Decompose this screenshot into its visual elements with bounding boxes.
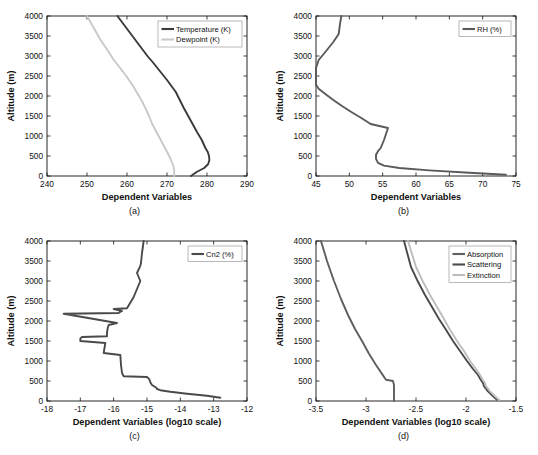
y-tick-label: 4000 (294, 236, 313, 246)
y-tick-label: 2000 (25, 91, 44, 101)
panel-c-plot: -18-17-16-15-14-13-120500100015002000250… (0, 229, 269, 432)
y-tick-label: 0 (38, 396, 43, 406)
x-tick-label: 280 (200, 179, 214, 189)
y-tick-label: 4000 (25, 236, 44, 246)
y-tick-label: 2500 (25, 71, 44, 81)
y-axis-title: Altitude (m) (6, 295, 16, 346)
x-tick-label: 65 (445, 179, 455, 189)
y-tick-label: 500 (298, 151, 312, 161)
y-tick-label: 1000 (25, 131, 44, 141)
y-tick-label: 1500 (25, 111, 44, 121)
y-tick-label: 500 (29, 376, 43, 386)
x-axis-title: Dependent Variables (371, 192, 461, 202)
panel-c-caption: (c) (0, 431, 269, 441)
y-tick-label: 2500 (294, 296, 313, 306)
y-tick-label: 1000 (25, 356, 44, 366)
y-tick-label: 3000 (294, 276, 313, 286)
x-tick-label: -1.5 (509, 404, 524, 414)
x-tick-label: 60 (411, 179, 421, 189)
x-tick-label: 270 (160, 179, 174, 189)
x-tick-label: 70 (478, 179, 488, 189)
y-tick-label: 3000 (25, 51, 44, 61)
y-tick-label: 3500 (294, 31, 313, 41)
x-tick-label: -13 (208, 404, 220, 414)
y-tick-label: 500 (29, 151, 43, 161)
y-axis-title: Altitude (m) (6, 70, 16, 121)
y-tick-label: 3000 (25, 276, 44, 286)
panel-b: 4550556065707505001000150020002500300035… (269, 4, 538, 229)
legend-label: Scattering (467, 260, 501, 269)
x-axis-title: Dependent Variables (102, 192, 192, 202)
legend-label: Dewpoint (K) (176, 35, 220, 44)
y-tick-label: 1000 (294, 131, 313, 141)
y-tick-label: 1500 (294, 111, 313, 121)
panel-a: 2402502602702802900500100015002000250030… (0, 4, 269, 229)
x-tick-label: -17 (74, 404, 86, 414)
y-tick-label: 3500 (294, 256, 313, 266)
y-tick-label: 3500 (25, 256, 44, 266)
panel-d-plot: -3.5-3-2.5-2-1.5050010001500200025003000… (269, 229, 538, 432)
x-axis-title: Dependent Variables (log10 scale) (73, 417, 222, 427)
x-tick-label: 260 (120, 179, 134, 189)
y-tick-label: 500 (298, 376, 312, 386)
y-axis-title: Altitude (m) (275, 295, 285, 346)
y-tick-label: 2000 (294, 91, 313, 101)
y-tick-label: 1000 (294, 356, 313, 366)
x-tick-label: 250 (80, 179, 94, 189)
y-tick-label: 2000 (25, 316, 44, 326)
y-tick-label: 1500 (294, 336, 313, 346)
y-tick-label: 4000 (294, 11, 313, 21)
y-axis-title: Altitude (m) (275, 70, 285, 121)
panel-c: -18-17-16-15-14-13-120500100015002000250… (0, 229, 269, 455)
x-tick-label: -15 (141, 404, 153, 414)
x-tick-label: 50 (345, 179, 355, 189)
panel-d: -3.5-3-2.5-2-1.5050010001500200025003000… (269, 229, 538, 455)
x-tick-label: -16 (108, 404, 120, 414)
legend-label: Absorption (467, 250, 503, 259)
x-tick-label: -12 (241, 404, 253, 414)
x-tick-label: -3 (362, 404, 370, 414)
y-tick-label: 3000 (294, 51, 313, 61)
legend-label: RH (%) (477, 25, 502, 34)
y-tick-label: 4000 (25, 11, 44, 21)
x-tick-label: 75 (511, 179, 521, 189)
panel-d-caption: (d) (269, 431, 538, 441)
y-tick-label: 1500 (25, 336, 44, 346)
figure-container: 2402502602702802900500100015002000250030… (0, 0, 538, 455)
legend-label: Cn2 (%) (206, 250, 234, 259)
x-tick-label: 45 (311, 179, 321, 189)
y-tick-label: 0 (307, 396, 312, 406)
panel-a-plot: 2402502602702802900500100015002000250030… (0, 4, 269, 207)
legend-label: Temperature (K) (176, 25, 231, 34)
y-tick-label: 0 (307, 171, 312, 181)
legend-label: Extinction (467, 271, 500, 280)
x-tick-label: 55 (378, 179, 388, 189)
x-tick-label: 290 (240, 179, 254, 189)
x-tick-label: -14 (174, 404, 186, 414)
y-tick-label: 2500 (25, 296, 44, 306)
y-tick-label: 0 (38, 171, 43, 181)
x-tick-label: -2 (462, 404, 470, 414)
panel-b-plot: 4550556065707505001000150020002500300035… (269, 4, 538, 207)
panel-a-caption: (a) (0, 206, 269, 216)
y-tick-label: 3500 (25, 31, 44, 41)
y-tick-label: 2500 (294, 71, 313, 81)
y-tick-label: 2000 (294, 316, 313, 326)
panel-b-caption: (b) (269, 206, 538, 216)
x-axis-title: Dependent Variables (log10 scale) (342, 417, 491, 427)
x-tick-label: -2.5 (409, 404, 424, 414)
